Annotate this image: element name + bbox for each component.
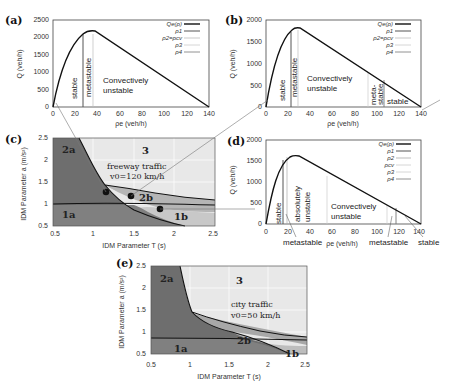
svg-text:60: 60	[328, 228, 336, 235]
x-ticks-b: 0 20 40 60 80 100 120 140	[264, 110, 427, 117]
svg-text:ρ1: ρ1	[386, 148, 394, 154]
region-3-e: 3	[236, 275, 243, 286]
svg-text:1: 1	[44, 200, 48, 207]
region-1b-e: 1b	[285, 348, 299, 359]
svg-text:100: 100	[371, 228, 383, 235]
region-1a-e: 1a	[174, 343, 188, 354]
svg-text:120: 120	[393, 110, 405, 117]
svg-text:ρ4: ρ4	[386, 176, 394, 182]
svg-text:40: 40	[93, 110, 101, 117]
svg-text:2: 2	[142, 284, 146, 291]
svg-text:1: 1	[188, 361, 192, 368]
label-stable-right-d: stable	[418, 238, 440, 247]
y-axis-label-c: IDM Parameter a (m/s²)	[20, 147, 28, 221]
svg-text:120: 120	[181, 110, 193, 117]
svg-text:20: 20	[284, 228, 292, 235]
svg-text:1000: 1000	[246, 60, 262, 67]
svg-text:ρcv: ρcv	[384, 162, 395, 168]
panel-a: (a) 0 500 1000 1500 2000 2500 0 20 40 60…	[5, 14, 215, 128]
region-3-c: 3	[142, 145, 149, 156]
svg-text:2.5: 2.5	[136, 262, 146, 269]
svg-text:ρ2: ρ2	[386, 155, 394, 161]
svg-text:500: 500	[250, 82, 262, 89]
svg-text:140: 140	[413, 228, 425, 235]
x-axis-label-e: IDM Parameter T (s)	[197, 373, 261, 381]
legend-a: Qe(ρ) ρ1 ρ2=ρcv ρ3 ρ4	[161, 21, 200, 55]
svg-text:0.5: 0.5	[50, 230, 60, 237]
panel-c: (c) 2a 3 2b 1a 1b freeway traffi	[5, 133, 218, 250]
region-unstable-a-2: unstable	[103, 86, 134, 95]
svg-text:2.5: 2.5	[208, 230, 218, 237]
svg-text:0: 0	[264, 110, 268, 117]
legend-d: Qe(ρ) ρ1 ρ2 ρcv ρ3 ρ4	[379, 141, 411, 182]
svg-text:40: 40	[306, 110, 314, 117]
y-axis-label-b: Q (veh/h)	[229, 49, 237, 78]
svg-text:2000: 2000	[246, 16, 262, 23]
svg-text:2000: 2000	[246, 136, 262, 143]
region-metastable-a: metastable	[84, 57, 93, 97]
x-ticks-c: 0.5 1 1.5 2 2.5	[50, 230, 218, 237]
svg-text:1000: 1000	[246, 178, 262, 185]
region-absolutely-unstable-d: unstable	[303, 191, 312, 222]
svg-text:2: 2	[266, 361, 270, 368]
svg-text:Qe(ρ): Qe(ρ)	[167, 21, 182, 27]
svg-text:2500: 2500	[33, 16, 49, 23]
svg-text:0: 0	[51, 110, 55, 117]
region-unstable-a-1: Convectively	[103, 76, 148, 85]
region-stable-d: stable	[274, 202, 283, 224]
svg-text:1.5: 1.5	[224, 361, 234, 368]
x-axis-label-d: ρe (veh/h)	[326, 240, 358, 248]
svg-text:80: 80	[138, 110, 146, 117]
svg-text:1: 1	[142, 328, 146, 335]
svg-text:1.5: 1.5	[136, 306, 146, 313]
y-ticks-e: 0.5 1 1.5 2 2.5	[136, 262, 146, 357]
svg-text:2: 2	[172, 230, 176, 237]
svg-text:2: 2	[44, 156, 48, 163]
svg-text:ρ2=ρcv: ρ2=ρcv	[161, 35, 183, 41]
svg-text:Qe(ρ): Qe(ρ)	[379, 141, 394, 147]
svg-text:ρ3: ρ3	[385, 42, 393, 48]
region-absolutely-d: absolutely	[293, 186, 302, 222]
y-ticks-c: 0.5 1 1.5 2 2.5	[38, 134, 48, 229]
y-axis-label-d: Q (veh/h)	[229, 165, 237, 194]
svg-text:500: 500	[37, 86, 49, 93]
svg-text:ρ1: ρ1	[385, 28, 393, 34]
note-e-2: v0=50 km/h	[230, 311, 280, 320]
panel-label-d: (d)	[227, 135, 245, 148]
svg-text:0: 0	[264, 228, 268, 235]
svg-text:80: 80	[351, 110, 359, 117]
svg-text:0: 0	[45, 103, 49, 110]
region-2a-e: 2a	[160, 273, 174, 284]
x-ticks-d: 0 20 40 60 80 100 120 140	[264, 228, 425, 235]
svg-text:80: 80	[351, 228, 359, 235]
svg-text:ρ1: ρ1	[174, 28, 182, 34]
svg-text:ρ3: ρ3	[174, 42, 182, 48]
label-metastable-right-d: metastable	[369, 238, 409, 247]
svg-text:60: 60	[328, 110, 336, 117]
svg-text:40: 40	[306, 228, 314, 235]
panel-e: (e) 2a 3 2b 1a 1b city traffic v0=50 km/…	[116, 257, 310, 381]
svg-text:120: 120	[393, 228, 405, 235]
svg-text:ρ4: ρ4	[385, 49, 393, 55]
note-c-2: v0=120 km/h	[109, 172, 164, 181]
svg-text:ρ2=ρcv: ρ2=ρcv	[372, 35, 394, 41]
region-unstable-d-2: unstable	[331, 212, 362, 221]
region-1b-c: 1b	[174, 211, 188, 222]
svg-text:20: 20	[284, 110, 292, 117]
region-meta-b-2: stable	[376, 83, 385, 105]
region-1a-c: 1a	[62, 209, 76, 220]
x-ticks-e: 0.5 1 1.5 2 2.5	[146, 361, 310, 368]
panel-label-a: (a)	[5, 14, 23, 27]
x-axis-label-c: IDM Parameter T (s)	[102, 242, 166, 250]
x-axis-label-b: ρe (veh/h)	[327, 120, 359, 128]
panel-label-e: (e)	[116, 257, 133, 270]
note-e-1: city traffic	[231, 300, 273, 309]
region-unstable-b-2: unstable	[307, 84, 338, 93]
svg-text:ρ3: ρ3	[386, 169, 394, 175]
region-2a-c: 2a	[62, 144, 76, 155]
y-ticks-d: 0 500 1000 1500 2000	[246, 136, 262, 227]
note-c-1: freeway traffic	[107, 162, 167, 171]
region-stable-b: stable	[278, 79, 287, 101]
svg-text:100: 100	[158, 110, 170, 117]
y-axis-label-a: Q (veh/h)	[16, 49, 24, 78]
